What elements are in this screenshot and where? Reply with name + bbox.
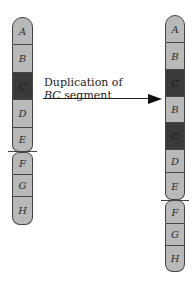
label-line-2: BC segment	[44, 89, 123, 102]
segment-label: F	[19, 158, 26, 169]
left-segment-c: C	[12, 73, 33, 100]
right-segment-h: H	[165, 246, 185, 272]
left-segment-e: E	[12, 128, 33, 152]
left-segment-g: G	[12, 175, 33, 197]
segment-label: B	[19, 53, 26, 64]
segment-label: G	[171, 229, 179, 240]
right-segment-e: E	[165, 173, 185, 200]
segment-label: C	[19, 81, 27, 92]
segment-label: A	[19, 26, 26, 37]
arrow-head-icon	[148, 94, 162, 104]
right-segment-b1: B	[165, 43, 185, 70]
left-centromere-line	[8, 151, 37, 152]
left-segment-a: A	[12, 17, 33, 45]
segment-label: E	[171, 181, 178, 192]
label-segment-word: segment	[61, 89, 112, 102]
arrow-line	[43, 98, 151, 99]
left-segment-d: D	[12, 100, 33, 128]
right-segment-f: F	[165, 200, 185, 224]
segment-label: D	[171, 156, 179, 167]
segment-label: C	[171, 131, 179, 142]
left-segment-b: B	[12, 45, 33, 73]
segment-label: B	[171, 51, 178, 62]
right-segment-b2: B	[165, 97, 185, 123]
left-chromosome: A B C D E F G H	[12, 17, 33, 225]
right-segment-g: G	[165, 224, 185, 246]
segment-label: C	[171, 78, 179, 89]
right-segment-c2: C	[165, 123, 185, 150]
segment-label: G	[19, 180, 27, 191]
segment-label: B	[171, 104, 178, 115]
right-segment-d: D	[165, 150, 185, 173]
right-chromosome: A B C B C D E F G H	[165, 15, 185, 272]
segment-label: A	[171, 24, 178, 35]
right-centromere-line	[161, 200, 189, 201]
segment-label: D	[18, 108, 26, 119]
label-line-1: Duplication of	[44, 76, 123, 89]
segment-label: H	[18, 205, 27, 216]
segment-label: E	[19, 134, 26, 145]
label-italic-bc: BC	[44, 89, 61, 102]
segment-label: F	[172, 207, 179, 218]
right-segment-c1: C	[165, 70, 185, 97]
segment-label: H	[171, 253, 180, 264]
right-segment-a: A	[165, 15, 185, 43]
left-segment-h: H	[12, 197, 33, 225]
left-segment-f: F	[12, 152, 33, 175]
